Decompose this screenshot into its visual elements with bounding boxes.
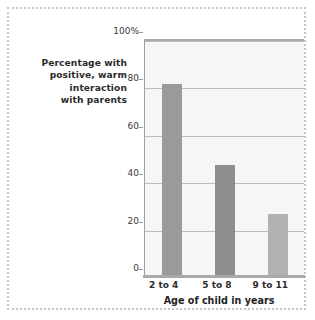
y-tick-label: 80 <box>95 73 139 83</box>
y-tick-mark <box>139 127 143 128</box>
figure-frame: Percentage with positive, warm interacti… <box>7 7 306 310</box>
y-tick-label: 40 <box>95 168 139 178</box>
x-tick-label: 2 to 4 <box>134 280 194 290</box>
y-tick-mark <box>139 269 143 270</box>
y-tick-label: 0 <box>95 263 139 273</box>
y-axis-ticks: 020406080100% <box>91 9 139 320</box>
y-tick-mark <box>139 222 143 223</box>
y-tick-label: 20 <box>95 216 139 226</box>
y-tick-mark <box>139 79 143 80</box>
bar[interactable] <box>162 84 182 276</box>
gridline <box>145 41 304 42</box>
y-tick-mark <box>139 174 143 175</box>
x-tick-label: 5 to 8 <box>187 280 247 290</box>
x-tick-label: 9 to 11 <box>240 280 300 290</box>
y-tick-label: 100% <box>95 26 139 36</box>
y-tick-mark <box>139 32 143 33</box>
x-axis-title: Age of child in years <box>129 295 309 306</box>
x-axis-line <box>143 275 305 278</box>
bar[interactable] <box>215 165 235 276</box>
plot-area <box>144 39 304 276</box>
y-tick-label: 60 <box>95 121 139 131</box>
bar[interactable] <box>268 214 288 276</box>
